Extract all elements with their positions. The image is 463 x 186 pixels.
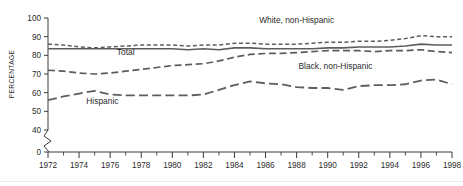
x-tick-label: 1986	[256, 161, 275, 170]
y-tick-label: 60	[32, 89, 42, 98]
annotation-total: Total	[117, 47, 135, 57]
annotation-black-non-hispanic: Black, non-Hispanic	[298, 61, 372, 71]
x-tick-label: 1994	[381, 161, 400, 170]
x-tick-label: 1990	[319, 161, 338, 170]
y-tick-label: 50	[32, 107, 42, 116]
x-tick-label: 1974	[70, 161, 89, 170]
x-tick-label: 1976	[101, 161, 120, 170]
x-tick-label: 1998	[443, 161, 462, 170]
x-tick-label: 1972	[39, 161, 58, 170]
y-axis-title-group: PERCENTAGE	[8, 50, 15, 99]
y-tick-label: 70	[32, 70, 42, 79]
y-tick-label: 40	[32, 126, 42, 135]
x-tick-label: 1978	[132, 161, 151, 170]
chart-background	[0, 0, 463, 186]
chart-figure: 1009080706050400 19721974197619781980198…	[0, 0, 463, 186]
y-tick-label: 80	[32, 51, 42, 60]
y-tick-label: 0	[36, 148, 41, 157]
line-chart: 1009080706050400 19721974197619781980198…	[0, 0, 463, 186]
x-tick-label: 1992	[350, 161, 369, 170]
y-axis-title: PERCENTAGE	[8, 50, 15, 99]
x-tick-label: 1984	[225, 161, 244, 170]
annotation-hispanic: Hispanic	[86, 96, 118, 106]
x-tick-label: 1988	[288, 161, 307, 170]
x-tick-label: 1980	[163, 161, 182, 170]
x-tick-label: 1982	[194, 161, 213, 170]
y-tick-label: 90	[32, 33, 42, 42]
footer-divider	[0, 181, 463, 182]
y-tick-label: 100	[27, 14, 41, 23]
x-tick-label: 1996	[412, 161, 431, 170]
annotation-white-non-hispanic: White, non-Hispanic	[259, 15, 334, 25]
